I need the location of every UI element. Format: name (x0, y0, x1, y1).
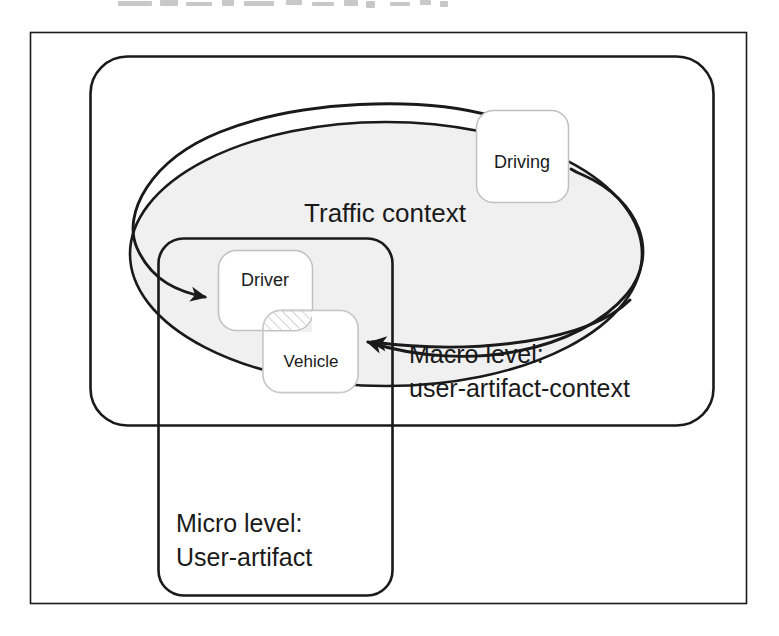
node-driver-label: Driver (241, 270, 289, 290)
diagram-svg: Driving Driver Vehicle Traffic context M… (0, 0, 779, 636)
node-driving[interactable]: Driving (477, 111, 569, 203)
micro-level-label-line1: Micro level: (176, 509, 302, 537)
node-vehicle[interactable]: Vehicle (263, 311, 358, 393)
macro-level-label-line1: Macro level: (409, 340, 544, 368)
node-vehicle-label: Vehicle (284, 352, 339, 371)
traffic-context-label: Traffic context (304, 198, 467, 228)
scan-artifact-strip (0, 0, 779, 9)
macro-level-label-line2: user-artifact-context (409, 374, 630, 402)
micro-level-label-line2: User-artifact (176, 543, 312, 571)
node-driving-label: Driving (494, 152, 550, 172)
diagram-canvas: Driving Driver Vehicle Traffic context M… (0, 0, 779, 636)
